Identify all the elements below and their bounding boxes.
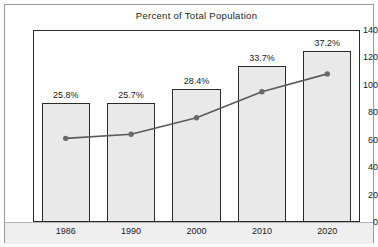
x-tick-label: 2000 — [186, 226, 206, 236]
x-tick-label: 2010 — [252, 226, 272, 236]
x-tick-label: 2020 — [317, 226, 337, 236]
bar — [107, 103, 155, 222]
x-tick-label: 1986 — [56, 226, 76, 236]
bar-data-label: 25.7% — [118, 90, 144, 100]
chart-container: Percent of Total Population 020406080100… — [0, 0, 378, 247]
bar-data-label: 25.8% — [53, 90, 79, 100]
bar-data-label: 28.4% — [184, 76, 210, 86]
x-tick-label: 1990 — [121, 226, 141, 236]
bar-data-label: 37.2% — [315, 38, 341, 48]
bar-data-label: 33.7% — [249, 53, 275, 63]
bar — [303, 51, 351, 222]
bar — [238, 66, 286, 222]
bar — [172, 89, 220, 222]
bar — [42, 103, 90, 222]
chart-title: Percent of Total Population — [33, 10, 360, 21]
